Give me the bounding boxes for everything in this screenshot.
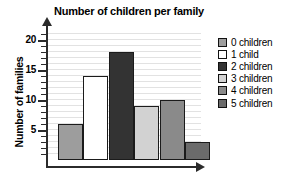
plot-inner — [46, 34, 203, 160]
y-axis-arrow-icon — [42, 17, 52, 26]
x-axis-arrow-icon — [196, 162, 205, 172]
legend-label: 4 children — [231, 85, 272, 96]
bar — [83, 76, 108, 160]
legend-label: 5 children — [231, 98, 272, 109]
legend-swatch-icon — [218, 74, 227, 83]
legend-swatch-icon — [218, 38, 227, 47]
y-axis-minor-tick — [41, 124, 47, 125]
legend-item[interactable]: 3 children — [218, 73, 302, 85]
y-axis-tick-label: 15 — [12, 64, 36, 75]
gridline — [46, 33, 201, 34]
legend-item[interactable]: 4 children — [218, 85, 302, 97]
y-axis-minor-tick — [41, 118, 47, 119]
y-axis-minor-tick — [41, 82, 47, 83]
legend-item[interactable]: 0 children — [218, 36, 302, 48]
y-axis-minor-tick — [41, 88, 47, 89]
y-axis-major-tick — [38, 100, 48, 102]
legend-label: 0 children — [231, 37, 272, 48]
bar-chart: Number of children per family Number of … — [0, 0, 303, 192]
bar — [58, 124, 83, 160]
bar — [134, 106, 159, 160]
y-axis-minor-tick — [41, 52, 47, 53]
legend-label: 3 children — [231, 73, 272, 84]
y-axis-minor-tick — [41, 58, 47, 59]
y-axis-minor-tick — [41, 76, 47, 77]
legend-label: 2 children — [231, 61, 272, 72]
legend-item[interactable]: 5 children — [218, 97, 302, 109]
y-axis-minor-tick — [41, 136, 47, 137]
y-axis-minor-tick — [41, 142, 47, 143]
y-axis-minor-tick — [41, 34, 47, 35]
plot-area — [46, 28, 203, 168]
y-axis-minor-tick — [41, 64, 47, 65]
gridline — [46, 39, 201, 40]
bar — [185, 142, 210, 160]
y-axis-tick-label: 20 — [12, 34, 36, 45]
chart-legend: 0 children1 child2 children3 children4 c… — [218, 36, 302, 109]
y-axis-minor-tick — [41, 154, 47, 155]
chart-title: Number of children per family — [34, 5, 224, 17]
y-axis-major-tick — [38, 70, 48, 72]
legend-item[interactable]: 1 child — [218, 48, 302, 60]
bar — [109, 52, 134, 160]
y-axis-tick-labels: 5101520 — [8, 0, 36, 192]
legend-swatch-icon — [218, 50, 227, 59]
gridline — [46, 45, 201, 46]
y-axis-tick-label: 10 — [12, 94, 36, 105]
y-axis-minor-tick — [41, 94, 47, 95]
y-axis-minor-tick — [41, 112, 47, 113]
legend-label: 1 child — [231, 49, 259, 60]
y-axis-minor-tick — [41, 46, 47, 47]
legend-swatch-icon — [218, 86, 227, 95]
bar — [160, 100, 185, 160]
x-axis-line — [46, 166, 198, 168]
y-axis-minor-tick — [41, 106, 47, 107]
legend-swatch-icon — [218, 99, 227, 108]
legend-swatch-icon — [218, 62, 227, 71]
y-axis-major-tick — [38, 130, 48, 132]
y-axis-tick-label: 5 — [12, 124, 36, 135]
y-axis-major-tick — [38, 40, 48, 42]
legend-item[interactable]: 2 children — [218, 60, 302, 72]
y-axis-minor-tick — [41, 148, 47, 149]
